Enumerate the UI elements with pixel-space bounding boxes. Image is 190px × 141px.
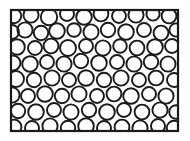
- circle-packing-diagram: [0, 0, 190, 141]
- microstructure-figure: [0, 0, 190, 141]
